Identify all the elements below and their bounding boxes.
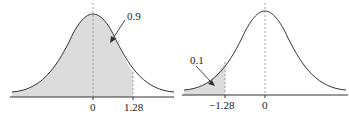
left-normal-curve xyxy=(10,3,174,100)
right-tick-zero: 0 xyxy=(262,100,268,111)
left-arrow xyxy=(112,20,125,40)
right-arrow xyxy=(196,66,212,83)
left-shaded-area xyxy=(12,14,133,97)
left-area-label: 0.9 xyxy=(127,11,141,22)
right-area-label: 0.1 xyxy=(190,55,204,66)
left-tick-zero: 0 xyxy=(90,102,96,113)
left-tick-1-28: 1.28 xyxy=(124,102,143,113)
right-shaded-area xyxy=(184,62,225,95)
right-tick-neg-1-28: −1.28 xyxy=(209,100,234,111)
normal-distribution-diagrams xyxy=(0,0,349,117)
right-normal-curve xyxy=(182,3,348,98)
